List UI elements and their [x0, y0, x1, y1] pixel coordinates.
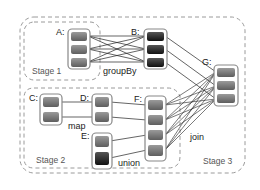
- groupby-edges: [88, 36, 146, 62]
- op-map-label: map: [68, 122, 86, 131]
- map-edges: [60, 102, 95, 117]
- op-join-label: join: [190, 133, 204, 142]
- rdd-a: [68, 29, 90, 69]
- stage1-label: Stage 1: [32, 67, 61, 76]
- rdd-a-label: A:: [56, 28, 65, 37]
- rdd-b-label: B:: [131, 28, 140, 37]
- rdd-d-label: D:: [80, 94, 89, 103]
- rdd-c-label: C:: [29, 94, 38, 103]
- op-groupby-label: groupBy: [103, 67, 137, 76]
- rdd-f: [145, 96, 166, 161]
- union-edges: [110, 102, 147, 158]
- rdd-d: [92, 94, 112, 125]
- op-union-label: union: [118, 159, 140, 168]
- rdd-e-label: E:: [81, 132, 90, 141]
- rdd-g: [214, 65, 238, 106]
- rdd-b: [144, 29, 167, 69]
- stage3-label: Stage 3: [203, 157, 232, 166]
- rdd-f-label: F:: [134, 95, 142, 104]
- join-edges-b: [165, 36, 216, 99]
- rdd-e: [92, 133, 112, 169]
- stage2-label: Stage 2: [36, 156, 65, 165]
- rdd-g-label: G:: [202, 58, 212, 67]
- rdd-c: [40, 94, 62, 125]
